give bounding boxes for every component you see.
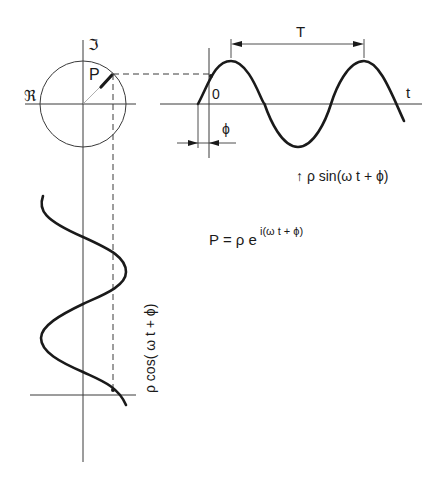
imag-axis-label: ℑ: [88, 36, 98, 53]
phase-arrow-right-icon: [188, 140, 198, 146]
sine-graph: [160, 39, 422, 158]
sine-projection-dot: [209, 74, 213, 78]
period-label: T: [296, 23, 305, 40]
cosine-expression: ρ cos( ω t + ϕ): [142, 304, 158, 393]
phasor-diagram: ℑ ℜ P 0 t T ϕ ↑ ρ sin(ω t + ϕ) ρ cos( ω …: [0, 0, 438, 478]
real-axis-label: ℜ: [24, 87, 37, 104]
point-label: P: [89, 66, 100, 83]
phasor-arrow: [101, 75, 112, 87]
phasor-circle-group: [25, 40, 136, 462]
diagram-svg: ℑ ℜ P 0 t T ϕ ↑ ρ sin(ω t + ϕ) ρ cos( ω …: [0, 0, 438, 478]
formula-base: P = ρ e: [209, 231, 257, 248]
sine-expression: ↑ ρ sin(ω t + ϕ): [296, 168, 388, 184]
formula-exponent: i(ω t + ϕ): [260, 225, 303, 237]
phase-label: ϕ: [222, 121, 230, 137]
phase-arrow-left-icon: [209, 140, 219, 146]
period-arrow-right-icon: [353, 41, 364, 47]
period-arrow-left-icon: [231, 41, 242, 47]
time-axis-label: t: [406, 84, 411, 101]
origin-label: 0: [212, 86, 220, 102]
cos-projection-dot: [111, 388, 115, 392]
